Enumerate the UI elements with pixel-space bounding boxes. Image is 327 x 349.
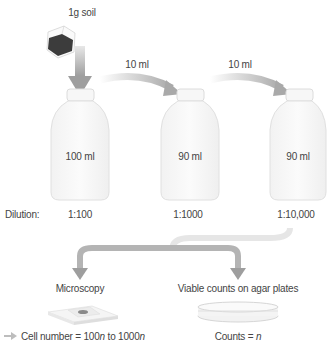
bottle-3-dilution: 1:10,000 [277, 209, 314, 220]
result-arrow-icon [4, 332, 17, 340]
agar-plates-label: Viable counts on agar plates [178, 283, 298, 294]
split-arrow-icon [72, 228, 290, 280]
cell-number-result: Cell number = 100n to 1000n [21, 331, 145, 342]
transfer-arrow-1-icon [100, 76, 182, 96]
transfer-2-label: 10 ml [228, 59, 251, 70]
agar-plate-icon [198, 302, 278, 322]
transfer-arrow-2-icon [210, 76, 292, 96]
bottle-2-dilution: 1:1000 [173, 209, 202, 220]
counts-result: Counts = n [215, 331, 262, 342]
transfer-1-label: 10 ml [125, 59, 148, 70]
bottle-2-icon [161, 89, 219, 200]
bottle-3-icon [270, 89, 326, 200]
bottle-1-icon [51, 89, 109, 200]
bottle-1-dilution: 1:100 [68, 209, 92, 220]
bottle-2-volume: 90 ml [178, 151, 201, 162]
microscope-slide-icon [48, 306, 118, 325]
dilution-label: Dilution: [5, 209, 39, 220]
diagram-graphics [0, 0, 327, 349]
bottle-1-volume: 100 ml [66, 151, 95, 162]
bottle-3-volume: 90 ml [286, 151, 309, 162]
soil-cube-icon [47, 26, 75, 58]
microscopy-label: Microscopy [56, 283, 105, 294]
soil-label: 1g soil [68, 7, 96, 18]
